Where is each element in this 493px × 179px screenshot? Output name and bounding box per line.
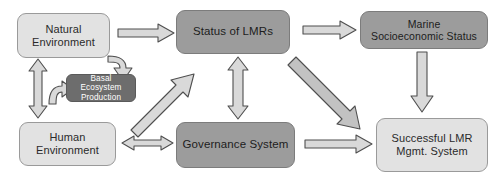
node-governance-system-label: Governance System [183, 138, 289, 152]
edge-status-governance-bidirectional [228, 57, 248, 119]
node-marine-socioeconomic-status-label: Marine Socioeconomic Status [371, 18, 477, 43]
node-successful-lmr-mgmt-system[interactable]: Successful LMR Mgmt. System [376, 118, 488, 172]
edge-status-to-marine [303, 21, 356, 39]
node-natural-environment[interactable]: Natural Environment [17, 13, 110, 58]
node-natural-environment-label: Natural Environment [32, 23, 95, 49]
node-basal-ecosystem-production[interactable]: Basal Ecosystem Production [66, 74, 136, 102]
edge-governance-to-successful [305, 135, 372, 153]
node-status-of-lmrs[interactable]: Status of LMRs [176, 10, 290, 54]
node-status-of-lmrs-label: Status of LMRs [193, 25, 273, 39]
node-governance-system[interactable]: Governance System [176, 122, 295, 168]
node-marine-socioeconomic-status[interactable]: Marine Socioeconomic Status [360, 11, 488, 49]
edge-human-governance-bidirectional [122, 136, 173, 150]
edge-natural-human-bidirectional [29, 59, 47, 118]
node-basal-ecosystem-production-label: Basal Ecosystem Production [71, 74, 131, 103]
edge-natural-to-status [118, 24, 174, 42]
node-human-environment-label: Human Environment [36, 131, 99, 157]
edge-status-to-successful-diagonal [288, 57, 360, 129]
node-human-environment[interactable]: Human Environment [19, 122, 116, 166]
diagram-canvas: .arw{fill:#d9d9d9;stroke:#4f4f4f;stroke-… [0, 0, 493, 179]
edge-marine-to-successful [411, 52, 433, 112]
node-successful-lmr-mgmt-system-label: Successful LMR Mgmt. System [392, 132, 473, 158]
